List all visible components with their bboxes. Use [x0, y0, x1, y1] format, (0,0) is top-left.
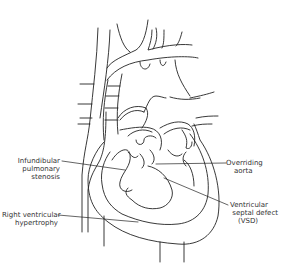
label-right-ventricular-hypertrophy: Right ventricular hypertrophy — [2, 211, 58, 227]
label-infundibular-pulmonary-stenosis: Infundibular pulmonary stenosis — [14, 157, 60, 181]
label-ventricular-septal-defect: Ventricular septal defect (VSD) — [218, 201, 278, 225]
leader-infundibular — [62, 161, 125, 170]
leader-lines — [58, 161, 228, 222]
aortic-arch — [107, 20, 198, 96]
pulmonary-veins — [78, 84, 218, 126]
heart-outline — [88, 124, 219, 244]
superior-vena-cava — [82, 28, 110, 232]
label-overriding-aorta: Overriding aorta — [226, 159, 276, 175]
leader-overriding — [156, 163, 226, 164]
ductus — [144, 96, 200, 112]
